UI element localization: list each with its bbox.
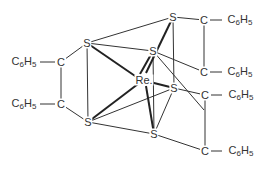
atom-s5: S [169, 83, 178, 94]
phenyl-group: C6H5 [11, 98, 38, 111]
atom-c4: C [199, 67, 209, 78]
atom-c3: C [199, 15, 209, 26]
atom-s1: S [82, 38, 91, 49]
atom-s6: S [149, 129, 158, 140]
atom-c2: C [56, 99, 66, 110]
atom-s2: S [83, 117, 92, 128]
atom-re: Re. [134, 75, 153, 86]
phenyl-group: C6H5 [228, 145, 255, 158]
phenyl-group: C6H5 [227, 66, 254, 79]
atom-s4: S [148, 46, 157, 57]
phenyl-group: C6H5 [227, 14, 254, 27]
atom-c1: C [56, 57, 66, 68]
phenyl-group: C6H5 [228, 89, 255, 102]
phenyl-group: C6H5 [11, 56, 38, 69]
atom-c5: C [200, 90, 210, 101]
atom-c6: C [200, 146, 210, 157]
chemical-structure-diagram: Re. S S S S S S C C C C C C C6H5 C6H5 C6… [0, 0, 266, 171]
atom-s3: S [168, 12, 177, 23]
